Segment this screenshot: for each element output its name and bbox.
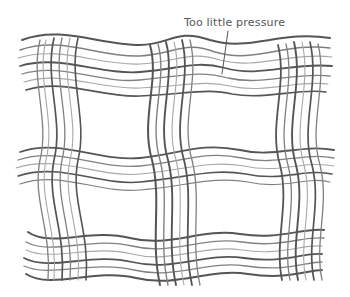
- horizontal-band-top: [18, 34, 332, 96]
- annotation-label: Too little pressure: [184, 16, 285, 29]
- plaid-sketch: [0, 0, 350, 297]
